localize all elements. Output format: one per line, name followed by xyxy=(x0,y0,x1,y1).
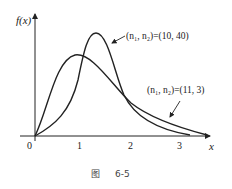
caption-number: 6-5 xyxy=(115,169,130,179)
tick-label-2: 2 xyxy=(128,140,133,151)
annotation-arrow-11-3 xyxy=(170,101,180,117)
annotation-label-10-40: (n₁, n₂)=(10, 40) xyxy=(126,31,189,42)
x-axis-label: x xyxy=(208,140,214,152)
caption-prefix: 图 xyxy=(91,169,100,179)
annotation-label-11-3: (n₁, n₂)=(11, 3) xyxy=(147,85,205,96)
f-distribution-figure: f(x) x 0 1 2 3 (n₁, n₂)=(10, 40) (n₁, n₂… xyxy=(0,0,232,189)
y-axis-label: f(x) xyxy=(16,14,32,27)
tick-label-1: 1 xyxy=(77,140,82,151)
annotation-arrow-10-40 xyxy=(112,36,125,43)
tick-label-0: 0 xyxy=(27,140,32,151)
curve-n1-11-n2-3 xyxy=(35,55,207,136)
tick-label-3: 3 xyxy=(177,140,182,151)
